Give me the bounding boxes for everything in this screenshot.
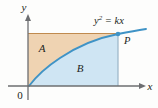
figure-container: y x 0 A B P y2 = kx	[0, 0, 158, 108]
x-axis-arrowhead	[139, 83, 146, 89]
curve-equation-rest: = kx	[102, 15, 124, 26]
x-axis-label: x	[147, 80, 153, 92]
parabola-region-figure: y x 0 A B P y2 = kx	[0, 0, 158, 108]
y-axis-arrowhead	[25, 14, 31, 21]
y-axis-label: y	[21, 1, 27, 13]
point-p-marker	[116, 32, 121, 37]
origin-label: 0	[17, 89, 23, 101]
point-p-label: P	[123, 35, 131, 46]
region-a-label: A	[38, 42, 46, 54]
curve-equation-label: y2 = kx	[93, 14, 124, 26]
region-b-label: B	[77, 62, 84, 74]
